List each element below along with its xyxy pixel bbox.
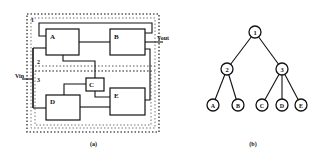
partition-3-label: 3 — [37, 77, 40, 83]
tree-node-2-label: 2 — [225, 66, 228, 73]
tree-node-b-label: B — [236, 103, 240, 109]
tree-node-1-label: 1 — [253, 29, 256, 36]
partition-2-label: 2 — [37, 59, 40, 65]
circuit-partition-diagram: A B C D E 1 2 3 Vin Vout (a) — [15, 14, 169, 148]
partition-1-label: 1 — [31, 17, 34, 23]
vin-label: Vin — [15, 73, 25, 79]
tree-node-e-label: E — [299, 103, 303, 109]
figure-b-caption: (b) — [249, 141, 256, 148]
figure-a-caption: (a) — [90, 141, 97, 148]
tree-nodes — [207, 26, 307, 111]
partition-tree-diagram: 1 2 3 A B C D E (b) — [207, 26, 307, 148]
vout-label: Vout — [157, 35, 169, 41]
figure-canvas: A B C D E 1 2 3 Vin Vout (a) — [0, 0, 325, 156]
tree-node-a-label: A — [211, 103, 216, 109]
tree-node-c-label: C — [260, 103, 264, 109]
block-d-label: D — [50, 98, 55, 106]
block-e-label: E — [114, 92, 119, 100]
block-b-label: B — [114, 33, 119, 41]
block-c-label: C — [89, 81, 94, 89]
tree-node-d-label: D — [280, 103, 285, 109]
block-a-label: A — [50, 33, 55, 41]
